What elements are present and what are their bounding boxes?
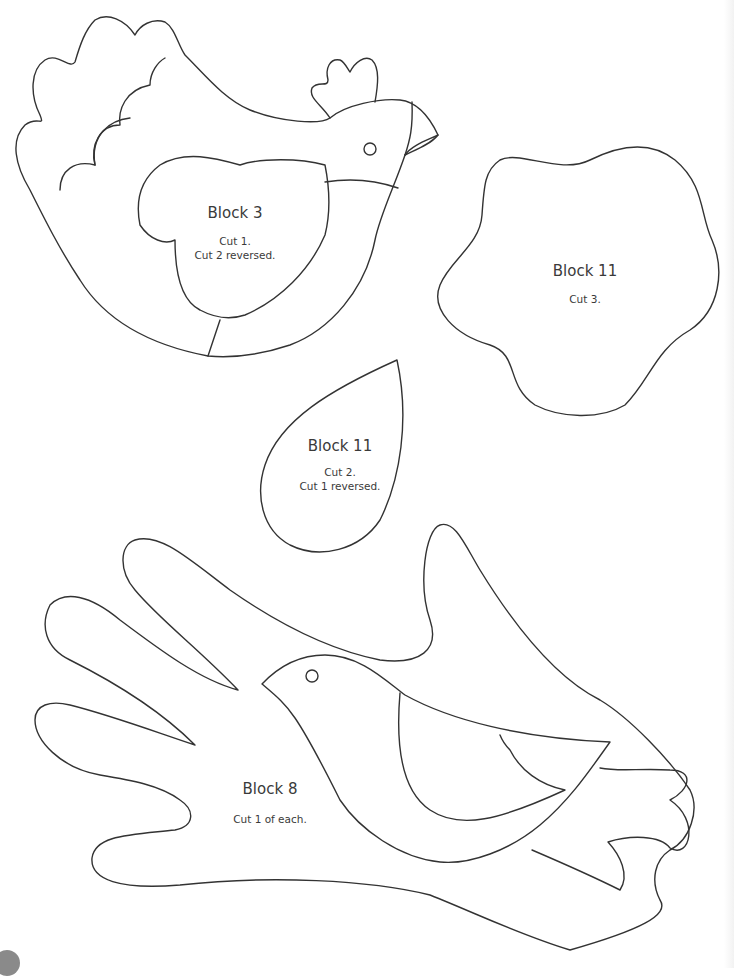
block11-flower-title: Block 11 (530, 262, 640, 280)
block8-title: Block 8 (215, 780, 325, 798)
block3-cut-line-1: Cut 1. (170, 234, 300, 248)
hen-shape (16, 17, 438, 357)
page-marker-dot (0, 950, 20, 976)
block8-cut-line-1: Cut 1 of each. (215, 812, 325, 826)
block11-flower-cut-line-1: Cut 3. (530, 292, 640, 306)
block3-label: Block 3 Cut 1. Cut 2 reversed. (170, 204, 300, 262)
block3-cut-line-2: Cut 2 reversed. (170, 248, 300, 262)
block3-title: Block 3 (170, 204, 300, 222)
block11-petal-cut-line-2: Cut 1 reversed. (280, 479, 400, 493)
block8-label: Block 8 Cut 1 of each. (215, 780, 325, 826)
block11-petal-title: Block 11 (280, 437, 400, 455)
hand-shape (35, 524, 694, 950)
block11-flower-label: Block 11 Cut 3. (530, 262, 640, 306)
block11-petal-label: Block 11 Cut 2. Cut 1 reversed. (280, 437, 400, 493)
dove-shape (262, 655, 689, 890)
block11-petal-cut-line-1: Cut 2. (280, 465, 400, 479)
